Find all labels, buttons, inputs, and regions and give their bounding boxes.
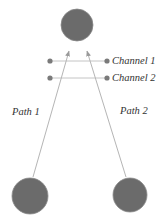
source-node-right [113, 178, 147, 212]
path-1: Path 1 [11, 51, 69, 177]
channel-2: Channel 2 [47, 72, 156, 83]
channel-1-right-dot [104, 58, 109, 63]
channel-2-left-dot [47, 75, 52, 80]
channel-2-right-dot [104, 75, 109, 80]
path-2: Path 2 [87, 51, 148, 177]
channel-1-label: Channel 1 [112, 55, 155, 66]
channel-2-label: Channel 2 [112, 72, 156, 83]
channel-1: Channel 1 [47, 55, 155, 66]
path-1-label: Path 1 [11, 106, 40, 117]
channel-path-diagram: Channel 1 Channel 2 Path 1 Path 2 [0, 0, 165, 221]
source-node-left [12, 178, 48, 214]
channel-1-left-dot [47, 58, 52, 63]
receiver-node [61, 9, 93, 41]
path-2-label: Path 2 [119, 105, 148, 116]
